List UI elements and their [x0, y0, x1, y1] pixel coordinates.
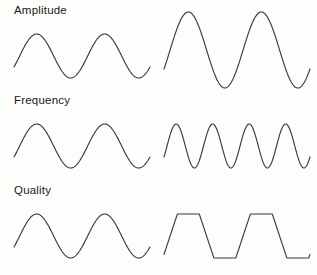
- wave-frequency-left-svg: [0, 90, 158, 182]
- row-quality: Quality: [0, 180, 317, 272]
- wave-quality-right: [158, 180, 317, 272]
- wave-quality-left: [0, 180, 158, 272]
- wave-frequency-left-path: [14, 124, 150, 168]
- wave-frequency-right-svg: [158, 90, 317, 182]
- wave-amplitude-left-svg: [0, 0, 158, 92]
- wave-amplitude-right: [158, 0, 317, 92]
- wave-frequency-right: [158, 90, 317, 182]
- wave-amplitude-right-path: [164, 12, 310, 88]
- wave-quality-right-path: [164, 214, 310, 258]
- row-amplitude: Amplitude: [0, 0, 317, 92]
- wave-frequency-right-path: [164, 124, 310, 168]
- wave-quality-right-svg: [158, 180, 317, 272]
- wave-amplitude-left: [0, 0, 158, 92]
- wave-amplitude-left-path: [14, 34, 150, 78]
- wave-frequency-left: [0, 90, 158, 182]
- wave-quality-left-svg: [0, 180, 158, 272]
- wave-amplitude-right-svg: [158, 0, 317, 92]
- row-frequency: Frequency: [0, 90, 317, 182]
- wave-quality-left-path: [14, 214, 150, 258]
- waveform-diagram: Amplitude Frequency Quality: [0, 0, 317, 275]
